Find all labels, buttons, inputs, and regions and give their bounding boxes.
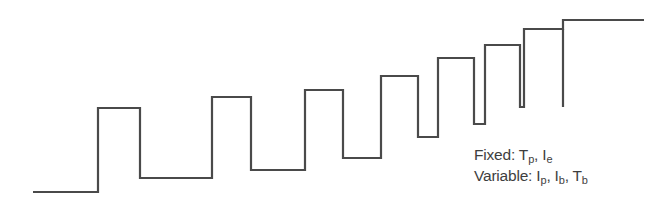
variable-label: Variable: bbox=[474, 167, 532, 184]
variable-parameters: Variable: Ip, Ib, Tb bbox=[474, 165, 588, 186]
parameter-legend: Fixed: Tp, Ie Variable: Ip, Ib, Tb bbox=[474, 144, 588, 186]
fixed-parameters: Fixed: Tp, Ie bbox=[474, 144, 588, 165]
variable-param-ib: Ib, bbox=[555, 167, 573, 184]
fixed-label: Fixed: bbox=[474, 146, 515, 163]
variable-param-ip: Ip, bbox=[536, 167, 554, 184]
fixed-param-tp: Tp, bbox=[519, 146, 542, 163]
fixed-param-ie: Ie bbox=[542, 146, 552, 163]
variable-param-tb: Tb bbox=[573, 167, 588, 184]
